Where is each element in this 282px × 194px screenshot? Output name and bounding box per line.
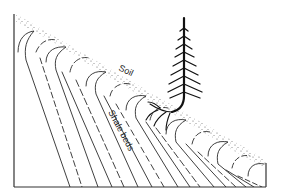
shale-beds bbox=[18, 31, 264, 187]
soil-layer bbox=[16, 14, 266, 168]
conifer-tree bbox=[168, 18, 202, 112]
cross-section-diagram: Soil Shale beds bbox=[0, 0, 282, 194]
